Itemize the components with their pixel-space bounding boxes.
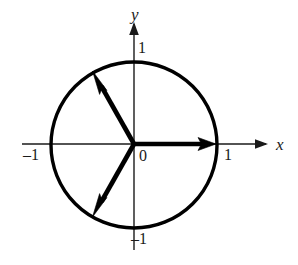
- tick-label-y-top: 1: [138, 40, 146, 56]
- vector-120-degrees: [93, 71, 135, 144]
- figure-canvas: [0, 0, 298, 265]
- origin-label: 0: [139, 148, 147, 164]
- vector-120-shaft: [102, 87, 135, 145]
- x-axis-label: x: [276, 136, 284, 153]
- tick-label-x-left: –1: [23, 147, 39, 163]
- x-axis-arrowhead-icon: [255, 139, 268, 149]
- tick-label-y-bottom: –1: [131, 231, 147, 247]
- vector-240-shaft: [102, 144, 135, 202]
- y-axis-label: y: [131, 6, 139, 23]
- tick-label-x-right: 1: [224, 147, 232, 163]
- unit-circle-figure: y x 1 –1 –1 1 0: [0, 0, 298, 265]
- vector-240-degrees: [93, 144, 135, 217]
